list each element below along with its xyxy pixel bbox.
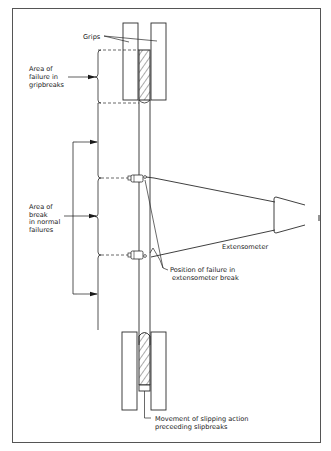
extensometer-break-leaders (145, 180, 168, 270)
bottom-grip-hatched-insert (139, 333, 150, 386)
specimen (139, 100, 150, 345)
slip-label: Movement of slipping action preceeding s… (155, 415, 251, 431)
extensometer-clip-upper (128, 175, 146, 182)
bottom-grip-jaw-right (151, 332, 166, 410)
top-grip-jaw-left (123, 23, 138, 100)
extensometer-body (274, 197, 305, 233)
extensometer-break-label: Position of failure in extensometer brea… (170, 266, 239, 282)
top-grip-hatched-insert (139, 50, 150, 100)
extensometer-clip-lower (128, 251, 146, 259)
bottom-grip-jaw-left (122, 332, 137, 410)
bottom-grip (122, 332, 166, 410)
top-grip-jaw-right (151, 23, 166, 100)
extensometer-label: Extensometer (222, 243, 268, 251)
grips-label: Grips (83, 33, 101, 41)
slip-gap (139, 385, 150, 391)
specimen-diagram: Grips Area of failure in gripbreaks Area… (0, 0, 331, 451)
slip-leader (145, 391, 152, 418)
normal-failure-brace (64, 103, 128, 330)
normal-failure-label: Area of break in normal failures (29, 203, 62, 234)
gripbreak-label: Area of failure in gripbreaks (29, 65, 65, 89)
top-grip (123, 23, 166, 100)
